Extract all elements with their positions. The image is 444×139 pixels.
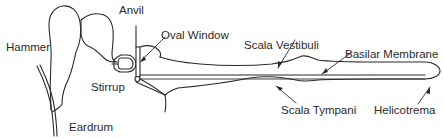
eardrum-shape (37, 65, 57, 136)
label-helicotrema: Helicotrema (374, 105, 435, 117)
label-hammer: Hammer (6, 42, 50, 54)
hammer-shape (49, 6, 81, 112)
label-basilar-membrane: Basilar Membrane (345, 49, 438, 61)
label-stirrup: Stirrup (91, 82, 125, 94)
stirrup-shape (112, 55, 136, 72)
label-oval-window: Oval Window (161, 30, 229, 42)
label-anvil: Anvil (119, 5, 144, 17)
ear-cochlea-diagram: Hammer Anvil Oval Window Stirrup Eardrum… (0, 0, 444, 139)
label-eardrum: Eardrum (69, 122, 113, 134)
label-scala-tympani: Scala Tympani (281, 105, 356, 117)
label-scala-vestibuli: Scala Vestibuli (244, 40, 319, 52)
anvil-shape (81, 14, 117, 62)
diagram-drawing (0, 0, 444, 139)
